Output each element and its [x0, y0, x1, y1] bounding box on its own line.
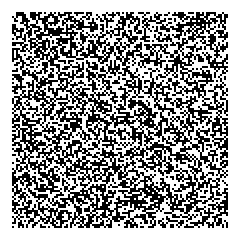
noise-pattern — [12, 12, 228, 228]
image-frame — [0, 0, 242, 241]
